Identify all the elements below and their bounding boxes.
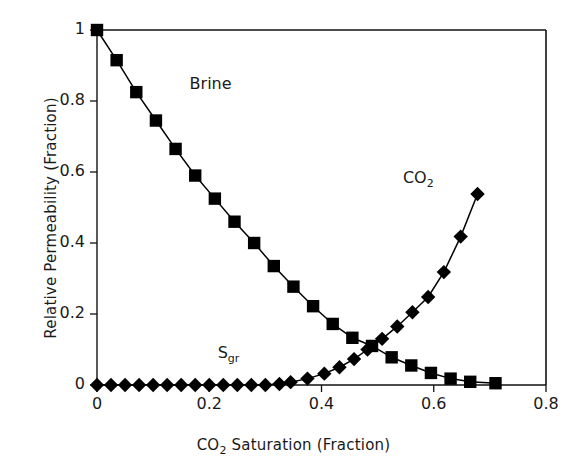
marker-square <box>248 237 260 249</box>
marker-square <box>327 318 339 330</box>
y-tick-label: 0.2 <box>25 303 85 322</box>
series-co2 <box>283 187 484 390</box>
y-tick-label: 0 <box>25 374 85 393</box>
series-line <box>97 30 495 383</box>
marker-diamond <box>202 378 216 392</box>
marker-diamond <box>188 378 202 392</box>
marker-diamond <box>90 378 104 392</box>
series-brine <box>91 24 502 390</box>
y-tick-label: 1 <box>25 19 85 38</box>
marker-square <box>346 332 358 344</box>
data-series <box>90 24 502 392</box>
marker-square <box>110 54 122 66</box>
marker-diamond <box>160 378 174 392</box>
marker-diamond <box>317 366 331 380</box>
marker-square <box>444 372 456 384</box>
marker-square <box>307 300 319 312</box>
co2-label: CO2 <box>403 168 434 190</box>
marker-diamond <box>216 378 230 392</box>
axis-ticks <box>90 30 546 392</box>
x-tick-label: 0.6 <box>404 394 464 413</box>
x-tick-label: 0.4 <box>292 394 352 413</box>
x-axis-title-rest: Saturation (Fraction) <box>227 436 391 454</box>
marker-diamond <box>470 187 484 201</box>
marker-square <box>91 24 103 36</box>
marker-diamond <box>174 378 188 392</box>
chart-figure: CO2 Saturation (Fraction) Relative Perme… <box>0 0 587 470</box>
marker-square <box>268 260 280 272</box>
marker-square <box>385 351 397 363</box>
marker-diamond <box>118 378 132 392</box>
x-tick-label: 0.2 <box>179 394 239 413</box>
marker-diamond <box>230 378 244 392</box>
marker-square <box>405 359 417 371</box>
marker-square <box>189 169 201 181</box>
marker-diamond <box>272 377 286 391</box>
marker-square <box>228 216 240 228</box>
x-axis-title: CO2 Saturation (Fraction) <box>0 436 587 457</box>
marker-square <box>489 377 501 389</box>
marker-square <box>169 143 181 155</box>
marker-diamond <box>146 378 160 392</box>
axes-frame <box>97 30 546 385</box>
marker-diamond <box>132 378 146 392</box>
co2-label-base: CO <box>403 168 427 187</box>
marker-diamond <box>300 371 314 385</box>
sgr-label-subscript: gr <box>228 352 240 365</box>
series-line <box>291 194 478 382</box>
marker-square <box>464 376 476 388</box>
y-tick-label: 0.8 <box>25 90 85 109</box>
marker-diamond <box>347 352 361 366</box>
marker-diamond <box>258 378 272 392</box>
marker-square <box>130 86 142 98</box>
marker-square <box>209 192 221 204</box>
sgr-label-base: S <box>218 343 228 362</box>
y-axis-title: Relative Permeability (Fraction) <box>42 63 60 373</box>
marker-diamond <box>437 265 451 279</box>
marker-diamond <box>283 375 297 389</box>
co2-label-subscript: 2 <box>427 177 434 190</box>
y-tick-label: 0.4 <box>25 232 85 251</box>
marker-square <box>425 367 437 379</box>
x-axis-title-subscript: 2 <box>219 444 226 457</box>
brine-label: Brine <box>190 74 232 93</box>
marker-diamond <box>244 378 258 392</box>
marker-diamond <box>453 229 467 243</box>
marker-square <box>150 114 162 126</box>
x-tick-label: 0.8 <box>516 394 576 413</box>
marker-diamond <box>332 360 346 374</box>
marker-diamond <box>104 378 118 392</box>
x-tick-label: 0 <box>67 394 127 413</box>
y-tick-label: 0.6 <box>25 161 85 180</box>
series-sgr <box>90 377 287 392</box>
x-axis-title-base: CO <box>197 436 220 454</box>
marker-square <box>287 280 299 292</box>
sgr-label: Sgr <box>218 343 240 365</box>
